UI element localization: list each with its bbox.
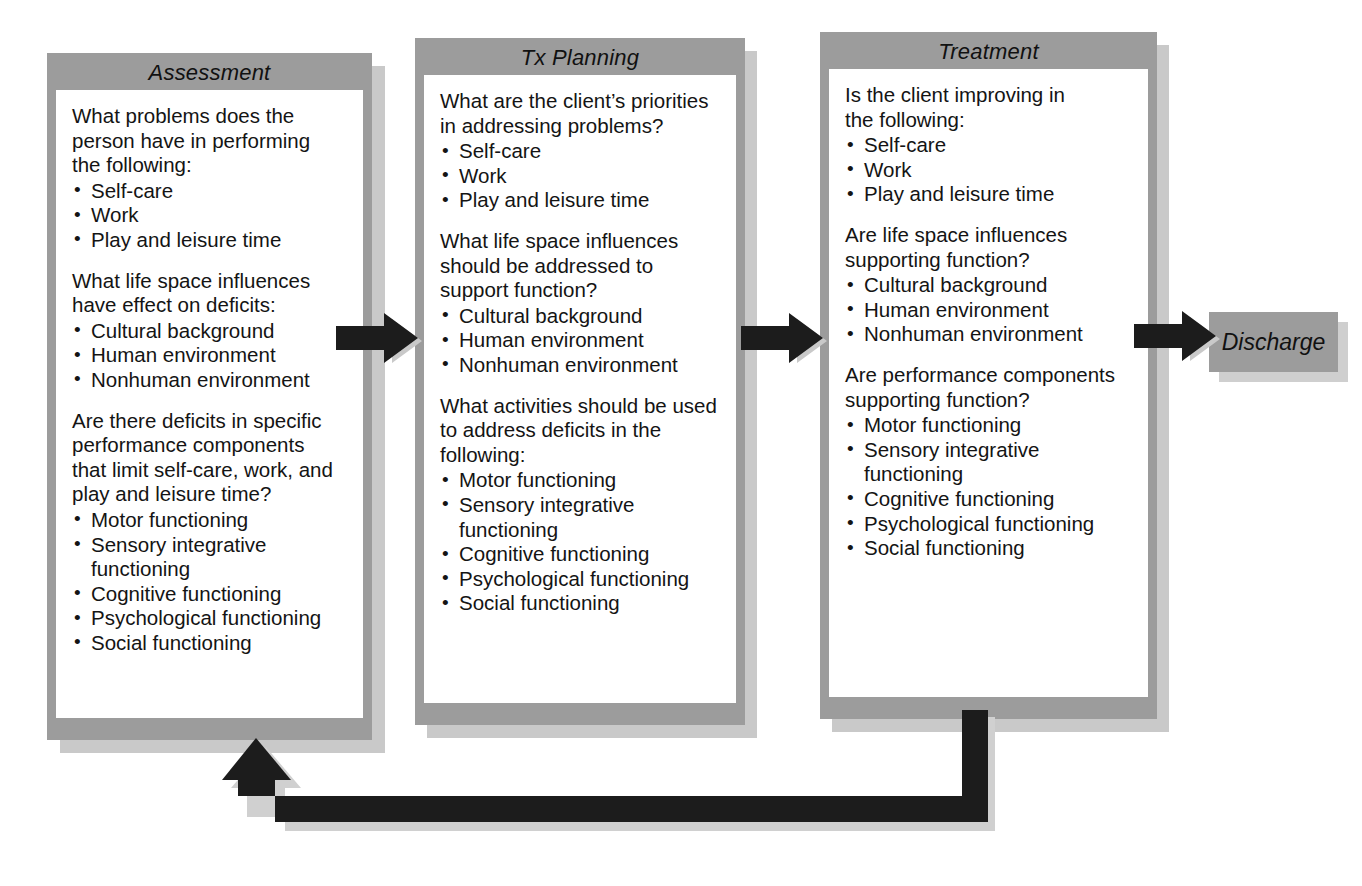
treatment-block-1: Is the client improving in the following…: [845, 83, 1134, 207]
list-item: Human environment: [845, 298, 1134, 323]
list-item: Nonhuman environment: [72, 368, 349, 393]
tx-planning-list-1: Self-care Work Play and leisure time: [440, 139, 722, 213]
assessment-body: What problems does the person have in pe…: [56, 90, 363, 718]
treatment-question-2: Are life space influences supporting fun…: [845, 223, 1134, 272]
tx-planning-list-3: Motor functioning Sensory integrative fu…: [440, 468, 722, 616]
assessment-question-3: Are there deficits in specific performan…: [72, 409, 349, 507]
tx-planning-list-2: Cultural background Human environment No…: [440, 304, 722, 378]
assessment-list-2: Cultural background Human environment No…: [72, 319, 349, 393]
list-item: Motor functioning: [845, 413, 1134, 438]
discharge-label: Discharge: [1222, 329, 1326, 356]
treatment-list-1: Self-care Work Play and leisure time: [845, 133, 1134, 207]
list-item: Cognitive functioning: [440, 542, 722, 567]
tx-planning-block-1: What are the client’s priorities in addr…: [440, 89, 722, 213]
list-item: Motor functioning: [440, 468, 722, 493]
list-item: Work: [845, 158, 1134, 183]
list-item: Sensory integrative functioning: [440, 493, 722, 542]
arrow-shape: [1134, 311, 1216, 361]
list-item: Cultural background: [72, 319, 349, 344]
feedback-loop-shape: [222, 710, 988, 822]
list-item: Cognitive functioning: [72, 582, 349, 607]
list-item: Play and leisure time: [845, 182, 1134, 207]
list-item: Self-care: [72, 179, 349, 204]
assessment-title: Assessment: [47, 60, 372, 86]
list-item: Nonhuman environment: [845, 322, 1134, 347]
treatment-question-3: Are performance components supporting fu…: [845, 363, 1134, 412]
arrow-assessment-to-tx-planning: [330, 310, 426, 372]
tx-planning-title: Tx Planning: [415, 45, 745, 71]
diagram-canvas: Assessment What problems does the person…: [0, 0, 1362, 886]
list-item: Psychological functioning: [845, 512, 1134, 537]
treatment-list-3: Motor functioning Sensory integrative fu…: [845, 413, 1134, 561]
list-item: Social functioning: [440, 591, 722, 616]
feedback-loop-treatment-to-assessment: [150, 700, 1050, 870]
assessment-block-3: Are there deficits in specific performan…: [72, 409, 349, 656]
assessment-list-1: Self-care Work Play and leisure time: [72, 179, 349, 253]
arrow-shape: [336, 313, 418, 363]
list-item: Work: [440, 164, 722, 189]
arrow-tx-planning-to-treatment: [735, 310, 831, 372]
tx-planning-block-3: What activities should be used to addres…: [440, 394, 722, 616]
list-item: Play and leisure time: [72, 228, 349, 253]
treatment-title: Treatment: [820, 39, 1157, 65]
list-item: Self-care: [845, 133, 1134, 158]
treatment-block-3: Are performance components supporting fu…: [845, 363, 1134, 561]
list-item: Social functioning: [72, 631, 349, 656]
list-item: Psychological functioning: [440, 567, 722, 592]
treatment-question-1: Is the client improving in the following…: [845, 83, 1134, 132]
list-item: Cultural background: [845, 273, 1134, 298]
tx-planning-body: What are the client’s priorities in addr…: [424, 75, 736, 703]
discharge-box[interactable]: Discharge: [1209, 312, 1338, 372]
arrow-treatment-to-discharge: [1128, 308, 1224, 370]
arrow-shape: [741, 313, 823, 363]
list-item: Cognitive functioning: [845, 487, 1134, 512]
assessment-list-3: Motor functioning Sensory integrative fu…: [72, 508, 349, 656]
list-item: Sensory integrative functioning: [845, 438, 1134, 487]
list-item: Human environment: [440, 328, 722, 353]
tx-planning-question-3: What activities should be used to addres…: [440, 394, 722, 468]
list-item: Work: [72, 203, 349, 228]
assessment-question-2: What life space influences have effect o…: [72, 269, 349, 318]
tx-planning-question-2: What life space influences should be add…: [440, 229, 722, 303]
list-item: Nonhuman environment: [440, 353, 722, 378]
assessment-block-1: What problems does the person have in pe…: [72, 104, 349, 253]
list-item: Psychological functioning: [72, 606, 349, 631]
tx-planning-block-2: What life space influences should be add…: [440, 229, 722, 378]
assessment-block-2: What life space influences have effect o…: [72, 269, 349, 393]
list-item: Play and leisure time: [440, 188, 722, 213]
list-item: Sensory integrative functioning: [72, 533, 349, 582]
treatment-body: Is the client improving in the following…: [829, 69, 1148, 697]
treatment-list-2: Cultural background Human environment No…: [845, 273, 1134, 347]
tx-planning-question-1: What are the client’s priorities in addr…: [440, 89, 722, 138]
list-item: Social functioning: [845, 536, 1134, 561]
assessment-question-1: What problems does the person have in pe…: [72, 104, 349, 178]
treatment-block-2: Are life space influences supporting fun…: [845, 223, 1134, 347]
list-item: Human environment: [72, 343, 349, 368]
list-item: Motor functioning: [72, 508, 349, 533]
list-item: Self-care: [440, 139, 722, 164]
list-item: Cultural background: [440, 304, 722, 329]
